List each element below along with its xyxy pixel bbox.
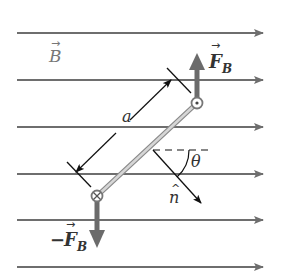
field-label-b: B →: [48, 37, 62, 66]
force-label-neg-fb: − → F B: [50, 218, 87, 254]
force-arrow-up: [189, 53, 205, 97]
current-in-icon: [92, 191, 103, 202]
length-label: a: [122, 107, 132, 126]
neg-sign: −: [50, 229, 65, 250]
force-arrow-down: [89, 202, 105, 248]
neg-force-subscript: B: [76, 240, 87, 254]
dimension-arrow-down: [76, 133, 116, 172]
normal-vector: θ n ^: [153, 150, 210, 207]
force-label-text: F: [208, 51, 223, 72]
dimension-arrow-up: [130, 80, 171, 120]
angle-label: θ: [191, 152, 201, 171]
diagram-canvas: B → a → F B − →: [0, 0, 284, 277]
force-subscript: B: [221, 62, 232, 76]
angle-arc: [177, 150, 189, 177]
neg-force-label-text: F: [63, 229, 78, 250]
vector-arrow-icon: →: [51, 37, 60, 50]
current-out-icon: [192, 98, 203, 109]
force-label-fb: → F B: [208, 39, 232, 76]
hat-icon: ^: [171, 182, 180, 195]
